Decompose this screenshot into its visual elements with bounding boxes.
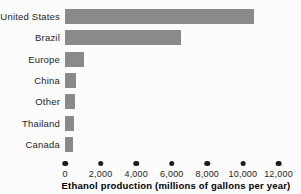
tick-label: 6,000 [160, 169, 184, 179]
bar-china [65, 73, 76, 88]
category-label-thailand: Thailand [0, 118, 65, 129]
chart-row-brazil: Brazil [0, 27, 301, 48]
category-label-united-states: United States [0, 11, 65, 22]
chart-row-canada: Canada [0, 134, 301, 155]
x-tick-10000: 10,000 [229, 158, 258, 179]
bar-united-states [65, 9, 254, 24]
chart-row-united-states: United States [0, 6, 301, 27]
tick-label: 10,000 [229, 169, 258, 179]
chart-row-thailand: Thailand [0, 112, 301, 133]
bar-canada [65, 137, 73, 152]
category-label-other: Other [0, 96, 65, 107]
category-label-brazil: Brazil [0, 32, 65, 43]
tick-dot-icon [62, 161, 68, 167]
chart-row-other: Other [0, 91, 301, 112]
x-tick-0: 0 [62, 158, 68, 179]
bar-europe [65, 52, 84, 67]
x-axis-title: Ethanol production (millions of gallons … [48, 180, 301, 191]
x-tick-2000: 2,000 [89, 158, 113, 179]
tick-label: 12,000 [264, 169, 293, 179]
tick-dot-icon [240, 161, 246, 167]
tick-label: 8,000 [196, 169, 220, 179]
tick-label: 0 [62, 169, 67, 179]
bar-thailand [65, 116, 74, 131]
tick-dot-icon [276, 161, 282, 167]
bar-brazil [65, 30, 181, 45]
chart-row-europe: Europe [0, 49, 301, 70]
tick-dot-icon [98, 161, 104, 167]
category-label-europe: Europe [0, 54, 65, 65]
ethanol-production-bar-chart: United StatesBrazilEuropeChinaOtherThail… [0, 0, 301, 194]
bar-other [65, 94, 75, 109]
x-tick-12000: 12,000 [264, 158, 293, 179]
tick-dot-icon [169, 161, 175, 167]
chart-row-china: China [0, 70, 301, 91]
x-tick-8000: 8,000 [196, 158, 220, 179]
tick-label: 2,000 [89, 169, 113, 179]
category-label-china: China [0, 75, 65, 86]
category-label-canada: Canada [0, 139, 65, 150]
tick-dot-icon [133, 161, 139, 167]
x-tick-6000: 6,000 [160, 158, 184, 179]
x-tick-4000: 4,000 [124, 158, 148, 179]
tick-label: 4,000 [124, 169, 148, 179]
plot-area: United StatesBrazilEuropeChinaOtherThail… [0, 6, 301, 155]
x-axis: 02,0004,0006,0008,00010,00012,000 [0, 158, 301, 180]
tick-dot-icon [205, 161, 211, 167]
